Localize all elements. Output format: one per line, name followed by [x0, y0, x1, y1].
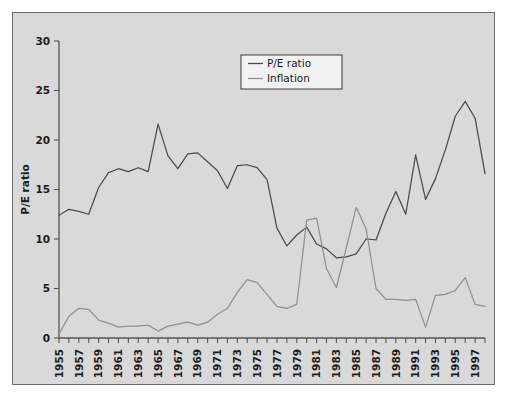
- x-tick-label: 1955: [53, 349, 65, 378]
- data-series: [59, 101, 485, 334]
- x-tick-label: 1981: [310, 349, 322, 378]
- series-line-inflation: [59, 207, 485, 334]
- series-line-pe-ratio: [59, 101, 485, 257]
- x-tick-label: 1957: [73, 349, 85, 378]
- x-tick-label: 1975: [251, 349, 263, 378]
- x-tick-label: 1973: [231, 349, 243, 378]
- y-tick-label: 30: [35, 35, 50, 47]
- y-axis-title: P/E ratio: [19, 164, 31, 214]
- x-tick-label: 1963: [132, 349, 144, 378]
- x-tick-label: 1971: [211, 349, 223, 378]
- y-tick-label: 0: [43, 332, 50, 344]
- y-axis-title-text: P/E ratio: [19, 164, 31, 214]
- chart-legend: P/E ratioInflation: [241, 55, 342, 89]
- x-tick-label: 1961: [112, 349, 124, 378]
- x-tick-label: 1985: [350, 349, 362, 378]
- chart-figure: 0510152025301955195719591961196319651967…: [12, 12, 495, 385]
- x-tick-label: 1987: [370, 349, 382, 378]
- x-tick-label: 1991: [409, 349, 421, 378]
- x-tick-label: 1969: [191, 349, 203, 378]
- legend-label: Inflation: [267, 72, 310, 84]
- legend-label: P/E ratio: [267, 57, 311, 69]
- x-tick-label: 1959: [92, 349, 104, 378]
- x-tick-label: 1977: [271, 349, 283, 378]
- y-tick-label: 20: [35, 134, 50, 146]
- x-tick-label: 1965: [152, 349, 164, 378]
- y-tick-label: 10: [35, 233, 50, 245]
- x-tick-label: 1997: [469, 349, 481, 378]
- x-tick-label: 1979: [291, 349, 303, 378]
- y-tick-label: 5: [43, 282, 50, 294]
- y-tick-label: 25: [35, 84, 50, 96]
- x-tick-label: 1989: [390, 349, 402, 378]
- x-tick-label: 1967: [172, 349, 184, 378]
- line-chart: 0510152025301955195719591961196319651967…: [13, 13, 494, 384]
- x-tick-label: 1993: [429, 349, 441, 378]
- x-tick-label: 1983: [330, 349, 342, 378]
- x-tick-label: 1995: [449, 349, 461, 378]
- y-tick-label: 15: [35, 183, 50, 195]
